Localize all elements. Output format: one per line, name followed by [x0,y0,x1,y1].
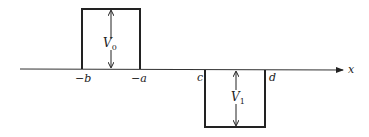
x-axis-label: x [348,63,355,76]
well-left-label: c [197,71,203,84]
well-depth-label: V1 [231,90,245,106]
barrier-right-label: −a [131,72,147,85]
well-right-label: d [269,71,276,84]
barrier-height-label: V0 [103,36,117,52]
barrier-left-label: −b [75,72,91,85]
potential-diagram: x V0 −b −a V1 c d [0,0,369,137]
x-axis [20,69,343,70]
